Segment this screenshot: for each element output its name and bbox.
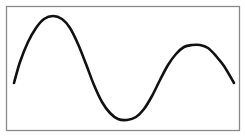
wave-chart xyxy=(0,0,245,139)
chart-frame xyxy=(7,7,240,131)
